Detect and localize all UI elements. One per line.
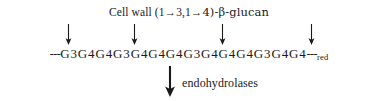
sequence-residue: G bbox=[219, 44, 229, 63]
down-arrow-icon bbox=[129, 24, 140, 45]
sequence-residue: G bbox=[201, 44, 211, 63]
sequence-right-terminus: --- bbox=[307, 47, 318, 61]
cleavage-arrow-row bbox=[0, 24, 378, 46]
down-arrow-icon bbox=[217, 24, 228, 45]
sequence-left-terminus: --- bbox=[50, 47, 61, 61]
sequence-linkage: 4 bbox=[158, 44, 166, 63]
sequence-residue: G bbox=[131, 44, 141, 63]
down-arrow-icon bbox=[63, 24, 74, 45]
sequence-linkage: 4 bbox=[105, 44, 113, 63]
sequence-linkage: 4 bbox=[299, 44, 307, 63]
beta-glucan-figure: Cell wall (1→3,1→4)-β-glucan bbox=[0, 0, 378, 101]
title-middle: 3,1 bbox=[176, 6, 191, 18]
sequence-linkage: 3 bbox=[193, 44, 201, 63]
sequence-residue: G bbox=[95, 44, 105, 63]
sequence-linkage: 3 bbox=[263, 44, 271, 63]
title-suffix: 4)-β-glucan bbox=[202, 5, 268, 19]
sequence-linkage: 4 bbox=[281, 44, 289, 63]
sequence-residue: G bbox=[60, 44, 70, 63]
glucan-backbone-sequence: ---G3G4G4G3G4G4G4G3G4G4G4G3G4G4---red bbox=[0, 44, 378, 64]
down-arrow-icon bbox=[306, 24, 317, 45]
enzyme-label: endohydrolases bbox=[182, 76, 258, 91]
sequence-residue: G bbox=[183, 44, 193, 63]
title-prefix: Cell wall (1 bbox=[109, 6, 165, 18]
sequence-inner: ---G3G4G4G3G4G4G4G3G4G4G4G3G4G4---red bbox=[50, 44, 328, 67]
sequence-linkage: 4 bbox=[175, 44, 183, 63]
sequence-residue: G bbox=[236, 44, 246, 63]
down-arrow-bold-icon bbox=[162, 66, 178, 97]
sequence-residue: G bbox=[166, 44, 176, 63]
sequence-units: G3G4G4G3G4G4G4G3G4G4G4G3G4G4 bbox=[60, 46, 306, 61]
sequence-linkage: 4 bbox=[228, 44, 236, 63]
reducing-end-label: red bbox=[317, 52, 328, 62]
enzyme-action-block: endohydrolases bbox=[0, 66, 378, 101]
sequence-residue: G bbox=[78, 44, 88, 63]
figure-title: Cell wall (1→3,1→4)-β-glucan bbox=[0, 5, 378, 20]
sequence-linkage: 3 bbox=[123, 44, 131, 63]
title-arrow-1: → bbox=[165, 6, 177, 18]
sequence-linkage: 4 bbox=[87, 44, 95, 63]
sequence-linkage: 3 bbox=[70, 44, 78, 63]
title-arrow-2: → bbox=[191, 6, 203, 18]
sequence-residue: G bbox=[113, 44, 123, 63]
sequence-residue: G bbox=[289, 44, 299, 63]
sequence-residue: G bbox=[148, 44, 158, 63]
sequence-linkage: 4 bbox=[211, 44, 219, 63]
sequence-residue: G bbox=[271, 44, 281, 63]
sequence-linkage: 4 bbox=[140, 44, 148, 63]
sequence-residue: G bbox=[254, 44, 264, 63]
sequence-linkage: 4 bbox=[246, 44, 254, 63]
